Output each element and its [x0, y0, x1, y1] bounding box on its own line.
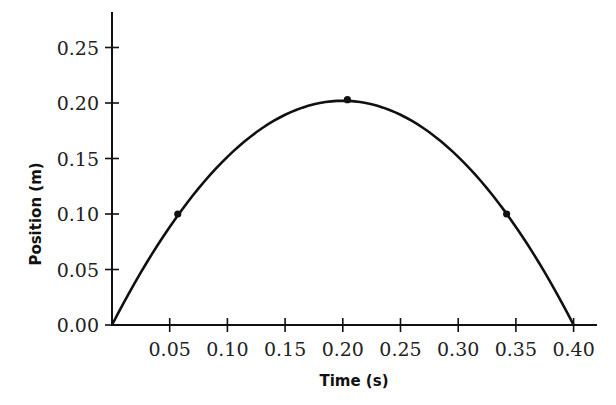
x-tick-label: 0.30 — [437, 338, 479, 360]
x-tick-label: 0.25 — [379, 338, 421, 360]
y-tick-label: 0.05 — [57, 259, 99, 281]
position-time-chart: 0.000.050.100.150.200.250.050.100.150.20… — [0, 0, 616, 405]
y-tick-label: 0.00 — [57, 314, 99, 336]
x-tick-label: 0.35 — [495, 338, 537, 360]
x-tick-label: 0.40 — [552, 338, 594, 360]
y-tick-label: 0.15 — [57, 148, 99, 170]
axes — [111, 12, 597, 326]
y-tick-label: 0.20 — [57, 92, 99, 114]
x-tick-label: 0.10 — [206, 338, 248, 360]
x-axis-label: Time (s) — [319, 372, 388, 390]
data-point-marker — [174, 210, 181, 217]
x-tick-label: 0.15 — [264, 338, 306, 360]
y-tick-label: 0.25 — [57, 37, 99, 59]
x-tick-label: 0.20 — [322, 338, 364, 360]
y-axis-label: Position (m) — [27, 162, 45, 265]
y-tick-label: 0.10 — [57, 203, 99, 225]
data-point-marker — [503, 210, 510, 217]
ticks: 0.000.050.100.150.200.250.050.100.150.20… — [57, 37, 595, 361]
x-tick-label: 0.05 — [149, 338, 191, 360]
data-point-marker — [344, 96, 351, 103]
